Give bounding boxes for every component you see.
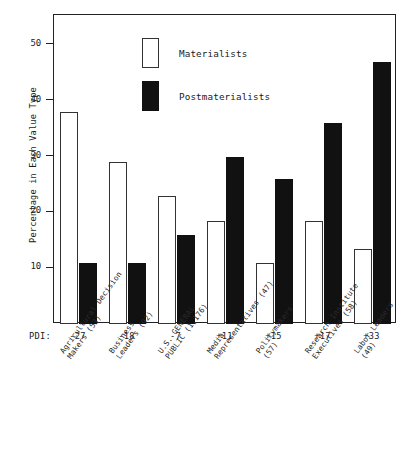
pdi-axis-label: PDI: <box>29 331 51 341</box>
y-axis-tick-label: 50 <box>11 39 41 48</box>
white-rect-swatch <box>142 38 159 68</box>
y-axis-tick-label: 40 <box>11 95 41 104</box>
black-rect-swatch <box>142 81 159 111</box>
y-axis-title: Percentage in Each Value Type <box>28 85 38 245</box>
legend-label-materialists: Materialists <box>179 48 247 59</box>
plot-area: MaterialistsPostmaterialists <box>53 14 396 323</box>
bar-post-6 <box>373 62 391 324</box>
bar-mat-5 <box>305 221 323 324</box>
y-axis-tick-label: 20 <box>11 206 41 215</box>
bar-mat-3 <box>207 221 225 324</box>
y-axis-tick-label: 30 <box>11 151 41 160</box>
bar-post-4 <box>275 179 293 324</box>
bar-post-5 <box>324 123 342 324</box>
bar-mat-2 <box>158 196 176 324</box>
bar-chart-figure: Percentage in Each Value Type 5040302010… <box>0 0 412 457</box>
y-axis-tick-label: 10 <box>11 262 41 271</box>
bar-mat-0 <box>60 112 78 324</box>
legend-label-postmaterialists: Postmaterialists <box>179 91 270 102</box>
